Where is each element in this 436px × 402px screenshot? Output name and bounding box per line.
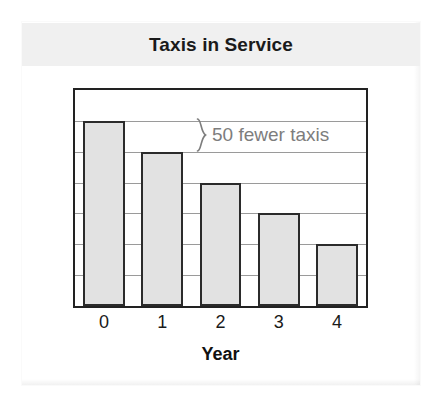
- bar-year-3[interactable]: [258, 213, 300, 306]
- x-tick-3: 3: [259, 312, 299, 333]
- x-tick-0: 0: [84, 312, 124, 333]
- curly-brace-icon: [196, 118, 207, 152]
- bar-year-2[interactable]: [200, 183, 242, 306]
- x-tick-4: 4: [317, 312, 357, 333]
- x-tick-2: 2: [201, 312, 241, 333]
- bar-year-4[interactable]: [316, 244, 358, 306]
- x-axis-label: Year: [73, 344, 368, 365]
- x-axis-tick-labels: 01234: [73, 312, 368, 338]
- x-tick-1: 1: [142, 312, 182, 333]
- bar-year-0[interactable]: [83, 121, 125, 306]
- annotation-50-fewer-taxis: 50 fewer taxis: [196, 118, 329, 152]
- chart-page: Taxis in Service Number of taxis 01234 Y…: [0, 0, 436, 402]
- bar-chart: Number of taxis 01234 Year 50 fewer taxi…: [0, 0, 436, 402]
- bar-year-1[interactable]: [141, 152, 183, 306]
- annotation-label: 50 fewer taxis: [212, 124, 329, 146]
